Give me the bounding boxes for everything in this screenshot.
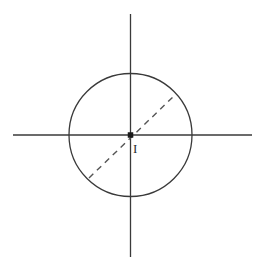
geometry-figure: I <box>0 0 263 271</box>
center-point-marker <box>128 132 134 138</box>
center-point-label: I <box>133 142 137 155</box>
figure-canvas <box>0 0 263 271</box>
